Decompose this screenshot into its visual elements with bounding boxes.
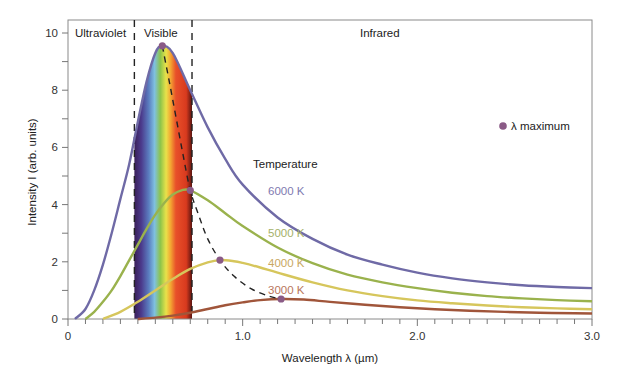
lambda-max-point [159, 42, 166, 49]
lambda-max-point [277, 295, 284, 302]
y-tick-label: 0 [52, 313, 58, 325]
x-tick-label: 2.0 [409, 330, 425, 342]
plot-area: Ultraviolet Visible Infrared λ maximum T… [62, 20, 592, 326]
visible-spectrum-band [134, 20, 192, 319]
blackbody-radiation-chart: Ultraviolet Visible Infrared λ maximum T… [0, 0, 624, 387]
x-tick-labels: 01.02.03.0 [65, 330, 600, 342]
label-3000k: 3000 K [268, 284, 305, 296]
y-tick-label: 6 [52, 141, 58, 153]
y-tick-label: 8 [52, 84, 58, 96]
label-5000k: 5000 K [268, 227, 305, 239]
y-tick-labels: 0246810 [45, 27, 58, 325]
region-label-visible: Visible [144, 27, 178, 39]
y-axis-title: Intensity I (arb. units) [26, 118, 38, 226]
x-tick-label: 3.0 [584, 330, 600, 342]
lambda-max-point [187, 187, 194, 194]
lambda-max-legend-marker [499, 122, 507, 130]
x-tick-label: 1.0 [235, 330, 251, 342]
y-tick-label: 2 [52, 256, 58, 268]
y-tick-label: 10 [45, 27, 58, 39]
y-tick-label: 4 [52, 199, 59, 211]
temperature-heading: Temperature [253, 158, 318, 170]
curve-3000k [138, 299, 592, 319]
label-6000k: 6000 K [268, 185, 305, 197]
x-tick-label: 0 [65, 330, 71, 342]
lambda-max-legend-label: λ maximum [511, 120, 570, 132]
label-4000k: 4000 K [268, 257, 305, 269]
region-label-ultraviolet: Ultraviolet [75, 27, 127, 39]
lambda-max-point [216, 256, 223, 263]
region-label-infrared: Infrared [360, 27, 400, 39]
x-axis-title: Wavelength λ (µm) [282, 352, 378, 364]
